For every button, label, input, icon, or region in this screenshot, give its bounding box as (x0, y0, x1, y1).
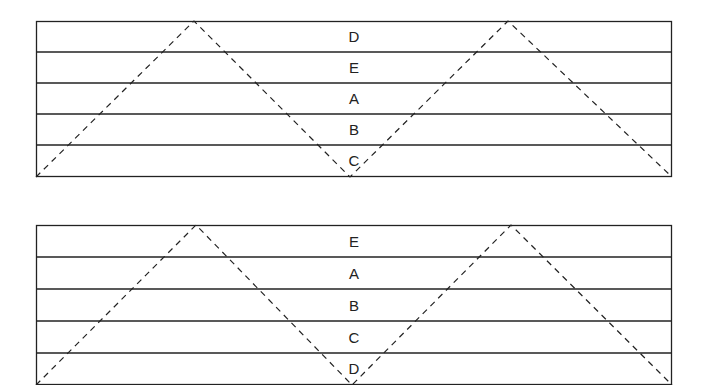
row-label: A (36, 83, 672, 114)
row-label: B (36, 114, 672, 145)
row-label: B (36, 290, 672, 322)
row-label: E (36, 52, 672, 83)
row-label: E (36, 226, 672, 258)
row-label: A (36, 258, 672, 290)
row-label: D (36, 21, 672, 52)
bottom-diagram: E A B C D (36, 225, 672, 385)
top-diagram: D E A B C (36, 21, 672, 177)
row-label: D (36, 353, 672, 385)
row-label: C (36, 145, 672, 176)
row-label: C (36, 322, 672, 354)
